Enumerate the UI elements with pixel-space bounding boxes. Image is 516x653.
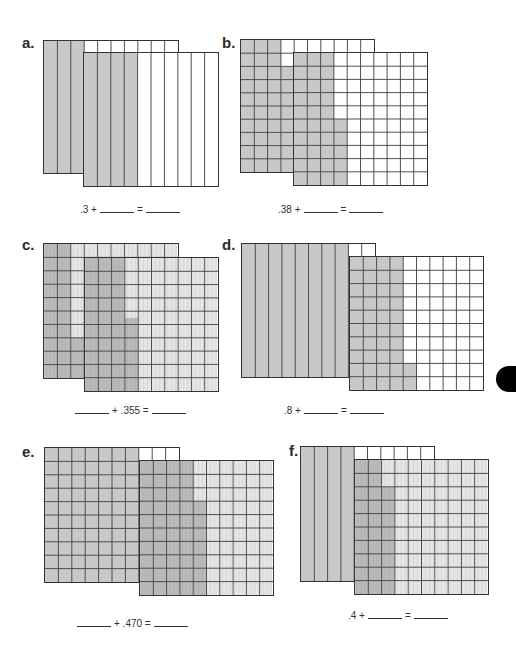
answer-blank[interactable]: [368, 617, 402, 619]
equation-addend: .8 +: [284, 405, 301, 416]
equation: .3 +=: [80, 204, 183, 215]
problem-letter: c.: [22, 236, 35, 253]
equation: .4 +=: [348, 610, 451, 621]
equation-addend: + .470 =: [114, 618, 151, 629]
equals-sign: =: [405, 610, 411, 621]
problem-letter: d.: [222, 236, 235, 253]
front-grid: [139, 460, 274, 596]
answer-blank[interactable]: [146, 211, 180, 213]
equals-sign: =: [341, 204, 347, 215]
equals-sign: =: [137, 204, 143, 215]
equation-addend: .3 +: [80, 204, 97, 215]
answer-blank[interactable]: [77, 625, 111, 627]
answer-blank[interactable]: [350, 412, 384, 414]
answer-blank[interactable]: [349, 211, 383, 213]
grid-drawing: [84, 53, 218, 186]
equation-addend: .4 +: [348, 610, 365, 621]
answer-blank[interactable]: [414, 617, 448, 619]
grid-drawing: [140, 461, 273, 595]
front-grid: [354, 459, 489, 595]
equation: + .470 =: [74, 618, 191, 629]
front-grid: [349, 256, 484, 391]
equation: .38 +=: [278, 204, 386, 215]
front-grid: [293, 52, 428, 186]
equation: + .355 =: [72, 405, 189, 416]
grid-drawing: [355, 460, 488, 594]
answer-blank[interactable]: [152, 412, 186, 414]
front-grid: [84, 257, 219, 392]
problem-letter: f.: [289, 442, 298, 459]
front-grid: [83, 52, 219, 187]
grid-drawing: [85, 258, 218, 391]
problem-letter: b.: [222, 34, 235, 51]
equals-sign: =: [341, 405, 347, 416]
equation-addend: .38 +: [278, 204, 301, 215]
answer-blank[interactable]: [154, 625, 188, 627]
equation-addend: + .355 =: [112, 405, 149, 416]
answer-blank[interactable]: [304, 412, 338, 414]
answer-blank[interactable]: [100, 211, 134, 213]
equation: .8 +=: [284, 405, 387, 416]
page-edge-tab-marker: [496, 366, 516, 392]
answer-blank[interactable]: [75, 412, 109, 414]
problem-letter: a.: [22, 34, 35, 51]
problem-letter: e.: [22, 443, 35, 460]
grid-drawing: [294, 53, 427, 185]
grid-drawing: [350, 257, 483, 390]
answer-blank[interactable]: [304, 211, 338, 213]
